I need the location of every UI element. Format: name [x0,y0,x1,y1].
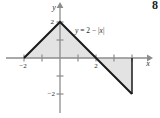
x-tick-label--2: −2 [19,62,27,70]
x-tick-label-2: 2 [94,62,98,70]
graph-svg: x y −2 2 2 −2 y = 2 − |x| [0,0,160,118]
curve-equation-annotation: y = 2 − |x| [74,26,104,35]
y-axis-arrow-icon [57,2,64,8]
figure-container: x y −2 2 2 −2 y = 2 − |x| [0,0,160,118]
svg-text:y = 2 − |x|: y = 2 − |x| [74,26,104,35]
y-tick-label-2: 2 [51,18,55,26]
problem-number: 8 [152,0,158,11]
y-tick-label--2: −2 [48,90,56,98]
x-axis-label: x [145,59,150,68]
equation-abs-close: | [103,26,105,35]
y-axis-label: y [51,3,56,12]
